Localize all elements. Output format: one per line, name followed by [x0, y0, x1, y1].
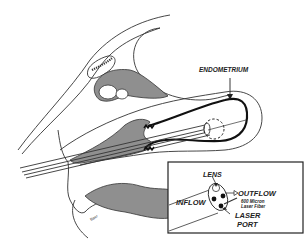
cervical-canal-tissue	[70, 119, 151, 163]
outflow-port	[221, 194, 226, 199]
artist-signature: Bacr	[89, 213, 99, 222]
label-outflow: OUTFLOW	[238, 189, 277, 198]
label-inflow: INFLOW	[176, 198, 206, 207]
inflow-port	[212, 197, 217, 202]
label-fiber-line2: Laser Fiber	[241, 204, 266, 209]
label-lens: LENS	[203, 171, 222, 178]
label-port: PORT	[237, 220, 259, 229]
ovary-left	[99, 85, 117, 99]
rectum-texture	[92, 58, 112, 70]
hysteroscopy-diagram: ENDOMETRIUM Bacr LENS OUTFLOW INFLOW 600…	[0, 0, 306, 248]
laser-port	[219, 204, 224, 209]
scope-tip	[204, 123, 210, 135]
vaginal-tissue	[85, 183, 170, 218]
label-laser: LASER	[235, 211, 261, 220]
ovary-right	[116, 89, 128, 99]
laser-fiber	[208, 120, 246, 130]
label-endometrium: ENDOMETRIUM	[199, 66, 249, 73]
